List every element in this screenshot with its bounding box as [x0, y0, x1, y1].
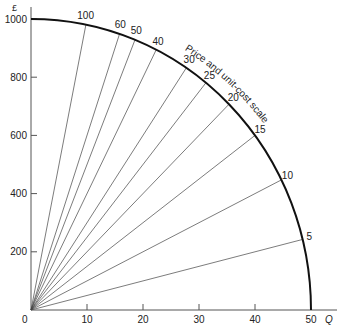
y-ticks: 2004006008001000 [5, 14, 37, 258]
ray-price-label: 60 [115, 19, 127, 30]
price-ray [31, 34, 120, 310]
x-axis-label: Q [325, 314, 333, 325]
x-tick-label: 10 [81, 314, 93, 325]
arc-label-path: Price and unit-cost scale [183, 42, 271, 125]
axes [31, 7, 337, 310]
price-ray [31, 180, 281, 310]
y-tick-label: 200 [10, 246, 27, 257]
price-ray [31, 83, 206, 310]
ray-price-label: 40 [153, 36, 165, 47]
x-tick-label: 30 [193, 314, 205, 325]
price-ray [31, 104, 229, 310]
ray-labels: 51015202530405060100 [77, 10, 312, 242]
ray-price-label: 100 [77, 10, 94, 21]
price-ray [31, 50, 156, 310]
y-axis-label: £ [12, 3, 17, 13]
ray-price-label: 50 [131, 25, 143, 36]
ray-price-label: 5 [307, 231, 313, 242]
x-tick-label: 20 [137, 314, 149, 325]
arc-label: Price and unit-cost scale [183, 42, 271, 125]
ray-price-label: 15 [255, 124, 267, 135]
origin-label: 0 [22, 314, 28, 325]
y-tick-label: 800 [10, 72, 27, 83]
x-tick-label: 40 [249, 314, 261, 325]
y-tick-label: 600 [10, 130, 27, 141]
x-ticks: 1020304050 [81, 304, 317, 325]
price-ray [31, 239, 303, 310]
y-tick-label: 400 [10, 188, 27, 199]
price-scale-chart: 1020304050 2004006008001000 510152025304… [0, 0, 345, 329]
ray-price-label: 10 [282, 170, 294, 181]
x-tick-label: 50 [305, 314, 317, 325]
y-tick-label: 1000 [5, 14, 28, 25]
price-rays [31, 25, 303, 310]
